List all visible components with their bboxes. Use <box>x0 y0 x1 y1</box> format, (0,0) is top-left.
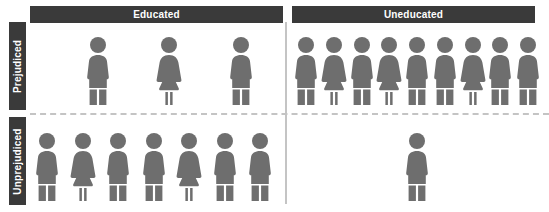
person-female-icon <box>376 36 402 106</box>
cell-educated-unprejudiced <box>32 126 275 202</box>
row-header-prejudiced: Prejudiced <box>9 22 26 110</box>
person-male-icon <box>487 36 513 106</box>
person-male-icon <box>349 36 375 106</box>
person-male-icon <box>247 132 273 202</box>
person-male-icon <box>141 132 167 202</box>
person-male-icon <box>515 36 541 106</box>
person-male-icon <box>105 132 131 202</box>
person-male-icon <box>293 36 319 106</box>
column-header-uneducated-label: Uneducated <box>384 9 443 20</box>
cell-uneducated-unprejudiced <box>290 126 544 202</box>
person-female-icon <box>70 132 96 202</box>
person-male-icon <box>228 36 254 106</box>
person-female-icon <box>321 36 347 106</box>
person-male-icon <box>34 132 60 202</box>
vertical-divider <box>285 22 287 204</box>
horizontal-divider <box>30 113 549 115</box>
person-female-icon <box>156 36 182 106</box>
cell-educated-prejudiced <box>62 28 277 106</box>
person-male-icon <box>404 36 430 106</box>
row-header-unprejudiced: Unprejudiced <box>9 117 26 205</box>
person-male-icon <box>404 132 430 202</box>
person-male-icon <box>212 132 238 202</box>
person-male-icon <box>85 36 111 106</box>
row-header-prejudiced-label: Prejudiced <box>12 39 23 92</box>
person-female-icon <box>460 36 486 106</box>
column-header-educated: Educated <box>30 6 283 23</box>
pictogram-chart: Educated Uneducated Prejudiced Unprejudi… <box>0 0 549 212</box>
row-header-unprejudiced-label: Unprejudiced <box>12 128 23 194</box>
column-header-uneducated: Uneducated <box>292 6 535 23</box>
cell-uneducated-prejudiced <box>290 28 544 106</box>
column-header-educated-label: Educated <box>133 9 180 20</box>
person-male-icon <box>432 36 458 106</box>
person-female-icon <box>176 132 202 202</box>
